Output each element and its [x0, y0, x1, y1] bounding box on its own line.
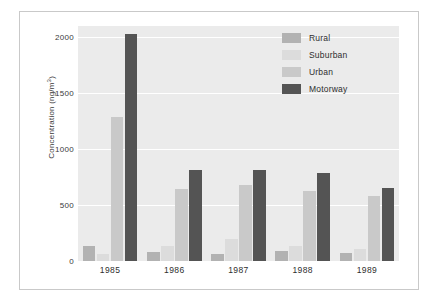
bar-rural-1986 — [147, 252, 160, 261]
plot-area — [78, 26, 399, 261]
x-axis-tick-label: 1987 — [228, 265, 249, 275]
bar-rural-1987 — [211, 254, 224, 261]
legend-label: Suburban — [309, 50, 347, 60]
y-axis-tick-label: 1000 — [20, 145, 74, 154]
bar-suburban-1988 — [289, 246, 302, 261]
y-axis-title-tail: ) — [47, 76, 56, 79]
y-axis-tick-label: 1500 — [20, 89, 74, 98]
y-axis-title: Concentration (ng/m3) — [46, 42, 57, 192]
bar-rural-1988 — [275, 251, 288, 261]
bar-motorway-1986 — [189, 170, 202, 261]
bar-group — [147, 26, 202, 261]
bar-rural-1985 — [83, 246, 96, 261]
y-axis-title-exponent: 3 — [46, 79, 52, 83]
gridline — [78, 261, 399, 262]
bar-motorway-1988 — [317, 173, 330, 261]
legend-swatch-rural — [282, 33, 301, 43]
bar-motorway-1987 — [253, 170, 266, 261]
bar-group — [83, 26, 138, 261]
bar-motorway-1985 — [125, 34, 138, 261]
chart-legend: RuralSuburbanUrbanMotorway — [282, 30, 347, 98]
y-axis-tick-label: 2000 — [20, 33, 74, 42]
legend-swatch-suburban — [282, 50, 301, 60]
legend-label: Motorway — [309, 84, 347, 94]
x-axis-tick-label: 1986 — [164, 265, 185, 275]
y-axis-tick-label: 500 — [20, 201, 74, 210]
legend-swatch-urban — [282, 67, 301, 77]
y-axis-tick-label: 0 — [20, 257, 74, 266]
x-axis-tick-label: 1989 — [357, 265, 378, 275]
chart-figure: Concentration (ng/m3) 0500100015002000 1… — [19, 11, 419, 290]
bar-urban-1989 — [368, 196, 381, 261]
bar-group — [340, 26, 395, 261]
x-axis-tick-label: 1985 — [100, 265, 121, 275]
bar-urban-1988 — [303, 191, 316, 261]
bar-suburban-1987 — [225, 239, 238, 261]
legend-label: Urban — [309, 67, 333, 77]
bar-urban-1986 — [175, 189, 188, 261]
legend-item-motorway[interactable]: Motorway — [282, 81, 347, 96]
bar-suburban-1985 — [97, 254, 110, 261]
bar-urban-1987 — [239, 185, 252, 261]
legend-swatch-motorway — [282, 84, 301, 94]
x-axis-tick-label: 1988 — [292, 265, 313, 275]
bar-suburban-1989 — [354, 249, 367, 261]
legend-item-suburban[interactable]: Suburban — [282, 47, 347, 62]
bar-group — [211, 26, 266, 261]
legend-item-rural[interactable]: Rural — [282, 30, 347, 45]
bar-suburban-1986 — [161, 246, 174, 261]
legend-item-urban[interactable]: Urban — [282, 64, 347, 79]
bar-urban-1985 — [111, 117, 124, 261]
legend-label: Rural — [309, 33, 330, 43]
bar-motorway-1989 — [382, 188, 395, 261]
bar-rural-1989 — [340, 253, 353, 261]
